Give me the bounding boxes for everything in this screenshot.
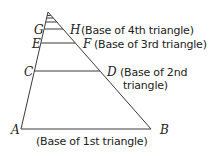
point-label-c: C xyxy=(24,66,33,78)
point-label-g: G xyxy=(34,24,44,36)
label-base-2nd-triangle-line1: (Base of 2nd xyxy=(120,66,187,79)
point-label-e: E xyxy=(32,38,41,50)
label-base-1st-triangle: (Base of 1st triangle) xyxy=(36,135,148,148)
label-base-4th-triangle: (Base of 4th triangle) xyxy=(81,24,194,37)
point-label-b: B xyxy=(160,124,169,136)
point-label-f: F xyxy=(83,38,91,50)
point-label-d: D xyxy=(107,66,117,78)
label-base-3rd-triangle: (Base of 3rd triangle) xyxy=(94,38,207,51)
point-label-a: A xyxy=(11,124,20,136)
point-label-h: H xyxy=(70,24,80,36)
label-base-2nd-triangle-line2: triangle) xyxy=(123,79,168,92)
